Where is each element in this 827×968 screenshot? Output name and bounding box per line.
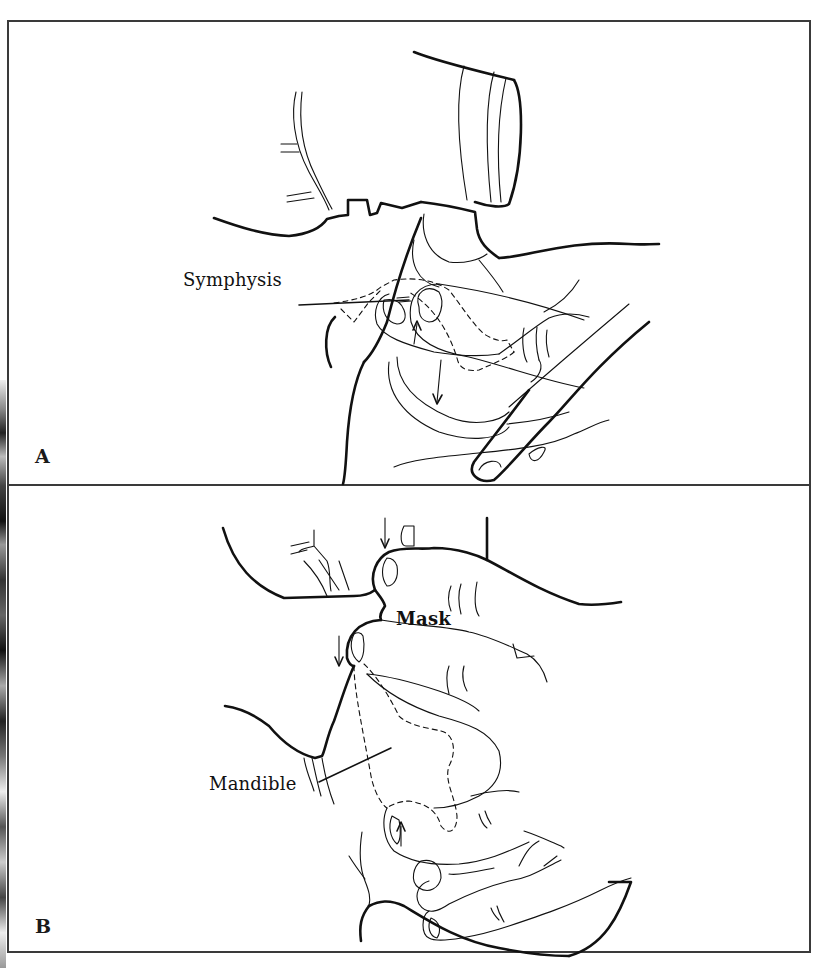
index-finger-a bbox=[472, 322, 649, 481]
upper-thumb-b bbox=[373, 548, 487, 590]
neck-line-b bbox=[360, 832, 370, 906]
neck-front-b bbox=[360, 906, 369, 941]
panel-a: Symphysis A bbox=[9, 22, 809, 484]
mask-lower-edge-b bbox=[381, 620, 547, 682]
mandible-dashed-outline-a bbox=[334, 279, 514, 352]
label-mask: Mask bbox=[396, 608, 451, 629]
mask-edge-b bbox=[375, 590, 385, 620]
panel-b-label: B bbox=[35, 915, 51, 937]
mask-tip-b bbox=[401, 526, 414, 546]
label-symphysis: Symphysis bbox=[183, 269, 282, 290]
finger-under-chin-a bbox=[376, 294, 500, 356]
upper-thumbnail-b bbox=[383, 558, 398, 586]
fingernail-a bbox=[383, 299, 405, 324]
pinky-finger-b bbox=[423, 878, 631, 940]
chin-a bbox=[326, 317, 335, 367]
lower-finger-b bbox=[524, 831, 564, 848]
fingernail-b bbox=[390, 816, 400, 844]
panel-b-illustration bbox=[9, 486, 809, 951]
fingertip-nail-a bbox=[529, 447, 545, 460]
right-cheek-outline-b bbox=[569, 882, 631, 956]
symphysis-leader-line bbox=[299, 300, 409, 305]
chin-lower-outline-b bbox=[369, 901, 569, 956]
panel-a-label: A bbox=[35, 445, 50, 467]
right-hand-outline-b bbox=[487, 518, 621, 605]
panel-a-lower-illustration bbox=[9, 22, 809, 484]
lower-thumbnail-b bbox=[351, 633, 364, 662]
mandible-leader-line bbox=[319, 748, 391, 782]
jaw-outline-b bbox=[225, 666, 354, 758]
scan-edge-artifact bbox=[0, 380, 6, 968]
label-mandible: Mandible bbox=[209, 773, 297, 794]
panel-b: Mask Mandible B bbox=[9, 486, 809, 951]
face-upper-outline-b bbox=[223, 528, 375, 598]
